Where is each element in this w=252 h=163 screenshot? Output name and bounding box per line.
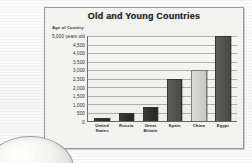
- y-axis-tick-label: 1,000: [73, 102, 85, 107]
- y-axis-tick-label: 1,500: [73, 94, 85, 99]
- y-axis-tick-label: 0: [82, 120, 85, 125]
- plot-wrapper: 05001,0001,5002,0002,5003,0003,5004,0004…: [51, 32, 238, 144]
- bar-slot: Great Britain: [138, 36, 162, 121]
- x-axis-category-label: Egypt: [210, 123, 235, 128]
- y-axis-tick-label: 4,500: [73, 42, 85, 47]
- x-axis-category-label: China: [186, 123, 211, 128]
- y-axis-tick-label: 3,500: [73, 59, 85, 64]
- bar: [215, 36, 230, 121]
- chart-title: Old and Young Countries: [45, 11, 243, 21]
- bars-group: United StatesRussiaGreat BritainSpainChi…: [88, 36, 237, 121]
- bar-slot: Egypt: [211, 36, 235, 121]
- bar: [191, 70, 206, 121]
- bar: [167, 79, 182, 122]
- gridline: 0: [88, 121, 237, 122]
- bar-slot: Russia: [114, 36, 138, 121]
- y-axis-tick-label: 2,500: [73, 77, 85, 82]
- screenshot-root: Old and Young Countries Age of Country 0…: [0, 0, 252, 163]
- bar: [94, 118, 109, 121]
- y-axis-tick-label: 3,000: [73, 68, 85, 73]
- bar: [119, 113, 134, 122]
- bar-slot: China: [187, 36, 211, 121]
- y-axis-tick-label: 4,000: [73, 51, 85, 56]
- plot-area: 05001,0001,5002,0002,5003,0003,5004,0004…: [87, 36, 237, 122]
- bar-slot: Spain: [163, 36, 187, 121]
- x-axis-category-label: United States: [90, 123, 115, 134]
- y-axis-title: Age of Country: [52, 25, 84, 30]
- caption-strip: [118, 152, 252, 163]
- bar: [143, 107, 158, 121]
- chart-panel: Old and Young Countries Age of Country 0…: [44, 7, 244, 149]
- y-axis-tick-label: 500: [77, 111, 85, 116]
- x-axis-category-label: Great Britain: [138, 123, 163, 134]
- y-axis-tick-label: 5,000 years old: [52, 34, 85, 39]
- bar-slot: United States: [90, 36, 114, 121]
- y-axis-tick-label: 2,000: [73, 85, 85, 90]
- x-axis-category-label: Russia: [114, 123, 139, 128]
- x-axis-category-label: Spain: [162, 123, 187, 128]
